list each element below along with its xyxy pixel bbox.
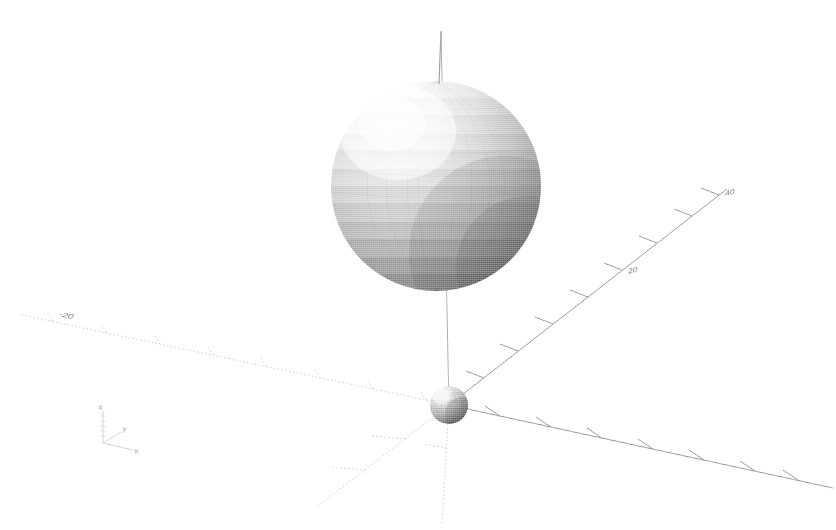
triad-label-x: x bbox=[135, 448, 138, 454]
axis-x-front-right-ticks bbox=[485, 406, 798, 480]
large-sphere bbox=[331, 81, 601, 348]
triad-y-axis bbox=[103, 443, 133, 450]
axis-hidden-front-left-ticks bbox=[332, 436, 405, 470]
tick-label-back-left: -20 bbox=[57, 311, 76, 321]
axis-hidden-down-ticks bbox=[424, 444, 446, 448]
triad-x-axis bbox=[103, 432, 121, 443]
figure-canvas: -20 20 40 bbox=[0, 0, 836, 530]
axis-z-pole-pin bbox=[439, 31, 441, 84]
tick-label-back-right-mid: 20 bbox=[628, 265, 639, 276]
origin-sphere bbox=[430, 386, 479, 431]
axis-hidden-back-left bbox=[22, 315, 449, 405]
axis-x-front-right bbox=[449, 405, 833, 488]
plot-scene: -20 20 40 bbox=[0, 0, 836, 530]
tick-label-back-right-far: 40 bbox=[725, 187, 736, 198]
hidden-axes-group bbox=[22, 313, 449, 524]
axis-hidden-back-left-ticks bbox=[48, 313, 426, 400]
triad-label-z: z bbox=[99, 404, 102, 410]
axis-hidden-front-left bbox=[318, 405, 449, 506]
triad-label-y: y bbox=[123, 426, 126, 432]
axis-triad: z y x bbox=[99, 404, 138, 454]
